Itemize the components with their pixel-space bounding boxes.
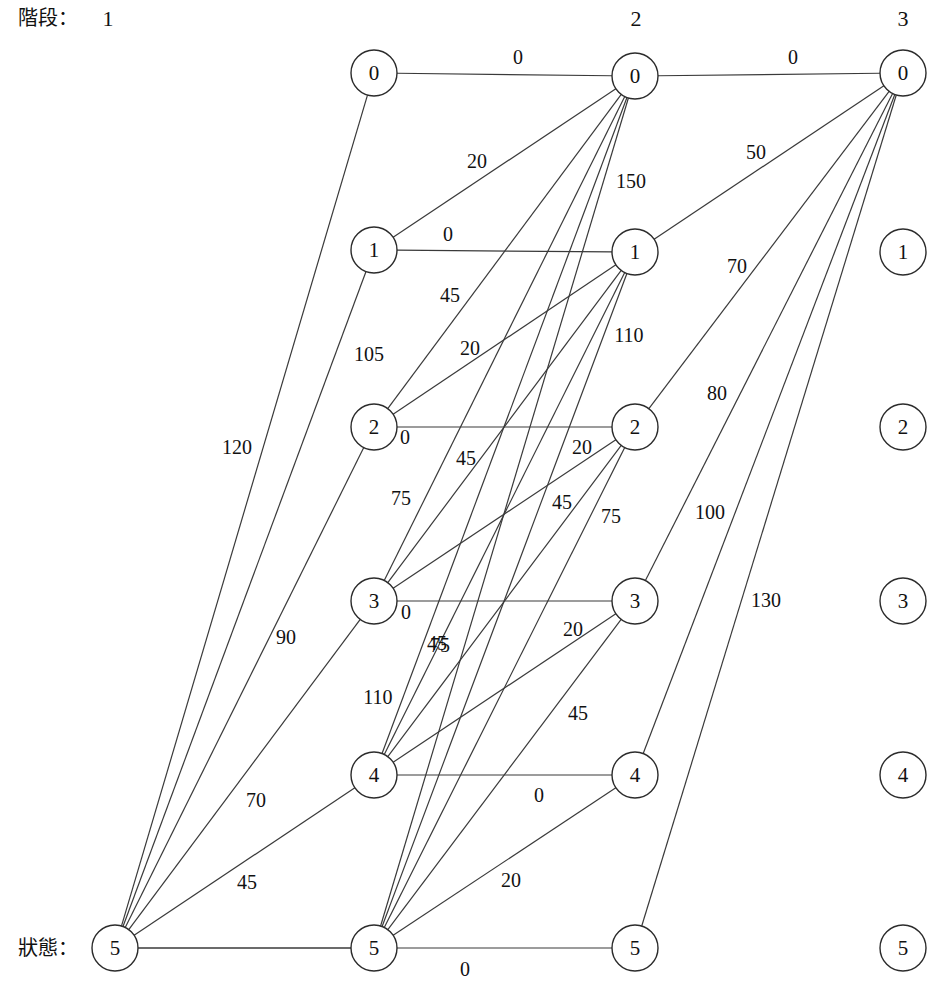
node-label-stage2-state4: 4	[630, 763, 641, 787]
node-label-stage3-state4: 4	[898, 763, 909, 787]
node-label-stage1-state4: 4	[369, 763, 380, 787]
edge-label-c1-3-c2-0: 45	[456, 447, 476, 469]
edge-label-c1-5-c2-0: 150	[616, 170, 646, 192]
edge-label-c2-5-c3-0: 130	[751, 589, 781, 611]
edge-label-origin-4: 70	[246, 789, 266, 811]
edge-label-c1-5-c2-2: 75	[601, 505, 621, 527]
edge-label-c1-3-c2-3: 0	[401, 601, 411, 623]
node-label-stage3-state0: 0	[898, 61, 909, 85]
node-label-stage3-state5: 5	[898, 936, 909, 960]
edge-label-c1-5-c2-1: 110	[614, 324, 643, 346]
edge-label-c1-2-c2-1: 45	[440, 284, 460, 306]
edge-label-origin-3: 90	[276, 626, 296, 648]
node-label-stage2-state2: 2	[630, 415, 641, 439]
edge-label-c1-4-c2-3: 20	[563, 618, 583, 640]
network-diagram: 1201059070451105020204545150045757511002…	[0, 0, 935, 1001]
state-axis-label: 狀態：	[18, 936, 78, 960]
edge-label-origin-2: 105	[354, 343, 384, 365]
diagram-text-layer: 1201059070451105020204545150045757511002…	[0, 0, 935, 1001]
stage-axis-label: 階段：	[18, 6, 78, 30]
edge-label-c1-3-c2-1: 75	[391, 487, 411, 509]
edge-label-c1-4-c2-1: 75	[430, 634, 450, 656]
edge-label-c2-3-c3-0: 80	[707, 382, 727, 404]
edge-label-c1-3-c2-2: 20	[572, 436, 592, 458]
node-label-stage1-state2: 2	[369, 415, 380, 439]
node-label-stage3-state1: 1	[898, 240, 909, 264]
edge-label-origin-5: 45	[237, 871, 257, 893]
edge-label-origin-1: 110	[363, 686, 392, 708]
edge-label-c2-2-c3-0: 70	[727, 255, 747, 277]
column-header-2: 2	[631, 6, 642, 31]
node-label-stage1-state1: 1	[369, 238, 380, 262]
edge-label-c2-1-c3-0: 50	[746, 141, 766, 163]
node-label-stage2-state1: 1	[630, 240, 641, 264]
edge-label-c1-1-c2-1: 0	[443, 223, 453, 245]
column-header-1: 1	[103, 6, 114, 31]
node-label-stage1-state0: 0	[369, 61, 380, 85]
edge-label-c1-5-c2-4: 20	[501, 869, 521, 891]
edge-label-c2-0-c3-0: 0	[788, 46, 798, 68]
node-origin-label: 5	[110, 936, 121, 960]
edge-label-c2-4-c3-0: 100	[695, 501, 725, 523]
node-label-stage3-state3: 3	[898, 589, 909, 613]
node-label-stage2-state5: 5	[630, 936, 641, 960]
edge-label-c1-0-c2-0: 0	[513, 46, 523, 68]
column-header-3: 3	[898, 6, 909, 31]
edge-label-c1-5-c2-5: 0	[460, 958, 470, 980]
edge-label-c1-1-c2-0: 20	[467, 150, 487, 172]
edge-label-c1-4-c2-2: 45	[552, 491, 572, 513]
node-label-stage2-state0: 0	[630, 64, 641, 88]
edge-label-c1-2-c2-2: 0	[400, 426, 410, 448]
node-label-stage1-state3: 3	[369, 589, 380, 613]
edge-label-c1-4-c2-4: 0	[534, 784, 544, 806]
node-label-stage2-state3: 3	[630, 589, 641, 613]
node-label-stage1-state5: 5	[369, 936, 380, 960]
edge-label-origin-0: 120	[222, 436, 252, 458]
edge-label-c1-2-c2-0: 20	[460, 337, 480, 359]
edge-label-c1-5-c2-3: 45	[568, 702, 588, 724]
node-label-stage3-state2: 2	[898, 415, 909, 439]
